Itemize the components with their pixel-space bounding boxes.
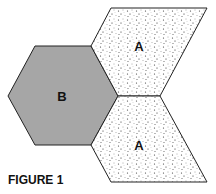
label-a-bottom: A — [134, 138, 144, 153]
label-a-top: A — [134, 39, 144, 54]
figure-diagram: B A A — [0, 0, 216, 194]
figure-caption: FIGURE 1 — [8, 173, 63, 187]
label-b: B — [57, 89, 66, 104]
